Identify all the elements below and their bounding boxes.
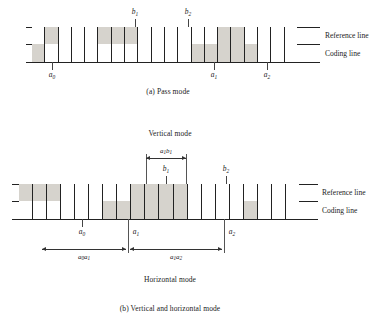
- panel-b-reference-cell: [202, 184, 216, 201]
- panel-a-reference-cell: [258, 27, 271, 44]
- panel-b-horizontal-mode-label: Horizontal mode: [144, 276, 196, 284]
- panel-a-coding-cell: [112, 44, 125, 62]
- panel-a-reference-row: [32, 27, 297, 44]
- panel-b-coding-row: [19, 201, 299, 219]
- panel-a-reference-cell: [98, 27, 111, 44]
- panel-b-coding-cell: [145, 201, 159, 219]
- panel-b-coding-cell: [286, 201, 299, 219]
- panel-b-reference-cell: [47, 184, 61, 201]
- panel-b-dimension-a1a2-arrow-right: [218, 247, 222, 251]
- panel-a-reference-cell: [125, 27, 138, 44]
- panel-b-reference-cell: [258, 184, 272, 201]
- panel-b-label-b2: b2: [223, 165, 229, 173]
- panel-a-tick-a2: [267, 62, 268, 70]
- panel-b-reference-cell: [272, 184, 286, 201]
- panel-b-label-a0: a0: [79, 228, 85, 236]
- panel-b-coding-cell: [103, 201, 117, 219]
- panel-a-reference-cell: [138, 27, 151, 44]
- panel-b-dimension-a1a2-label: a1a2: [169, 254, 183, 261]
- panel-a-coding-strip: [32, 44, 297, 62]
- panel-a-reference-cell: [72, 27, 85, 44]
- panel-b-dimension-a1b1-line: [146, 158, 186, 159]
- panel-a-coding-cell: [285, 44, 297, 62]
- panel-b-reference-cell: [159, 184, 173, 201]
- panel-b-coding-cell: [61, 201, 75, 219]
- panel-b-reference-cell: [19, 184, 33, 201]
- panel-a-label-b1: b1: [132, 8, 138, 16]
- panel-a-bottom-rule: [26, 62, 320, 63]
- panel-b-reference-cell: [230, 184, 244, 201]
- panel-a-coding-cell: [59, 44, 72, 62]
- panel-a-tick-a1: [214, 62, 215, 70]
- panel-a-coding-cell: [125, 44, 138, 62]
- panel-a-reference-strip: [32, 27, 297, 44]
- panel-a-reference-cell: [45, 27, 58, 44]
- panel-b-dimension-a0a1-label: a0a1: [77, 254, 91, 261]
- panel-a-coding-cell: [205, 44, 218, 62]
- panel-b-coding-cell: [19, 201, 33, 219]
- panel-a-coding-row: [32, 44, 297, 62]
- panel-a-reference-cell: [152, 27, 165, 44]
- figure-read-coding-modes: Reference line Coding line b1 b2 a0 a1 a…: [0, 0, 383, 317]
- panel-b-reference-cell: [145, 184, 159, 201]
- panel-a-coding-cell: [231, 44, 244, 62]
- panel-b-reference-cell: [131, 184, 145, 201]
- panel-b-coding-cell: [258, 201, 272, 219]
- panel-b-reference-cell: [188, 184, 202, 201]
- panel-b-reference-strip: [19, 184, 299, 201]
- panel-b-tick-a0: [82, 219, 83, 227]
- panel-b-coding-cell: [216, 201, 230, 219]
- panel-b-dimension-a0a1-arrow-left: [42, 247, 46, 251]
- panel-a-tick-b2: [188, 19, 189, 27]
- panel-a-coding-cell: [98, 44, 111, 62]
- panel-a-coding-cell: [138, 44, 151, 62]
- panel-b-coding-cell: [230, 201, 244, 219]
- panel-a-label-a2: a2: [264, 71, 270, 79]
- panel-b-dimension-a1a2-arrow-left: [130, 247, 134, 251]
- panel-a-coding-cell: [85, 44, 98, 62]
- panel-b-coding-cell: [202, 201, 216, 219]
- panel-a-reference-cell: [192, 27, 205, 44]
- panel-a-coding-cell: [32, 44, 45, 62]
- panel-a-reference-cell: [271, 27, 284, 44]
- panel-b-reference-cell: [244, 184, 258, 201]
- panel-a-reference-cell: [245, 27, 258, 44]
- panel-a-reference-cell: [205, 27, 218, 44]
- panel-a-coding-cell: [218, 44, 231, 62]
- panel-b-reference-cell: [286, 184, 299, 201]
- panel-b-tick-b1: [166, 176, 167, 184]
- panel-b-coding-cell: [174, 201, 188, 219]
- panel-a-reference-cell: [285, 27, 297, 44]
- panel-b-dimension-a0a1-line: [42, 249, 126, 250]
- panel-b-coding-cell: [272, 201, 286, 219]
- panel-a-reference-cell: [165, 27, 178, 44]
- panel-a-coding-cell: [152, 44, 165, 62]
- panel-a-label-a0: a0: [49, 71, 55, 79]
- panel-b-coding-cell: [89, 201, 103, 219]
- panel-pass-mode: Reference line Coding line b1 b2 a0 a1 a…: [0, 0, 383, 105]
- panel-b-reference-cell: [117, 184, 131, 201]
- panel-b-guide-a2-lower: [224, 219, 225, 253]
- panel-b-coding-strip: [19, 201, 299, 219]
- panel-b-dimension-a1b1-label: a1b1: [159, 148, 173, 155]
- panel-b-caption: (b) Vertical and horizontal mode: [120, 305, 221, 313]
- panel-a-reference-cell: [85, 27, 98, 44]
- panel-b-dimension-a1b1-arrow-right: [182, 156, 186, 160]
- panel-b-dimension-a0a1-arrow-right: [122, 247, 126, 251]
- panel-a-coding-cell: [271, 44, 284, 62]
- panel-a-reference-cell: [32, 27, 45, 44]
- panel-b-dimension-a1a2-line: [130, 249, 222, 250]
- panel-b-coding-cell: [131, 201, 145, 219]
- panel-b-reference-cell: [61, 184, 75, 201]
- panel-a-reference-line-label: Reference line: [325, 32, 369, 40]
- panel-b-guide-a1-lower: [128, 219, 129, 253]
- panel-b-reference-cell: [75, 184, 89, 201]
- panel-a-coding-cell: [72, 44, 85, 62]
- panel-b-label-a2: a2: [229, 228, 235, 236]
- panel-b-coding-cell: [75, 201, 89, 219]
- panel-a-caption: (a) Pass mode: [146, 88, 189, 96]
- panel-b-coding-cell: [47, 201, 61, 219]
- panel-a-reference-cell: [59, 27, 72, 44]
- panel-b-reference-row: [19, 184, 299, 201]
- panel-a-coding-cell: [178, 44, 191, 62]
